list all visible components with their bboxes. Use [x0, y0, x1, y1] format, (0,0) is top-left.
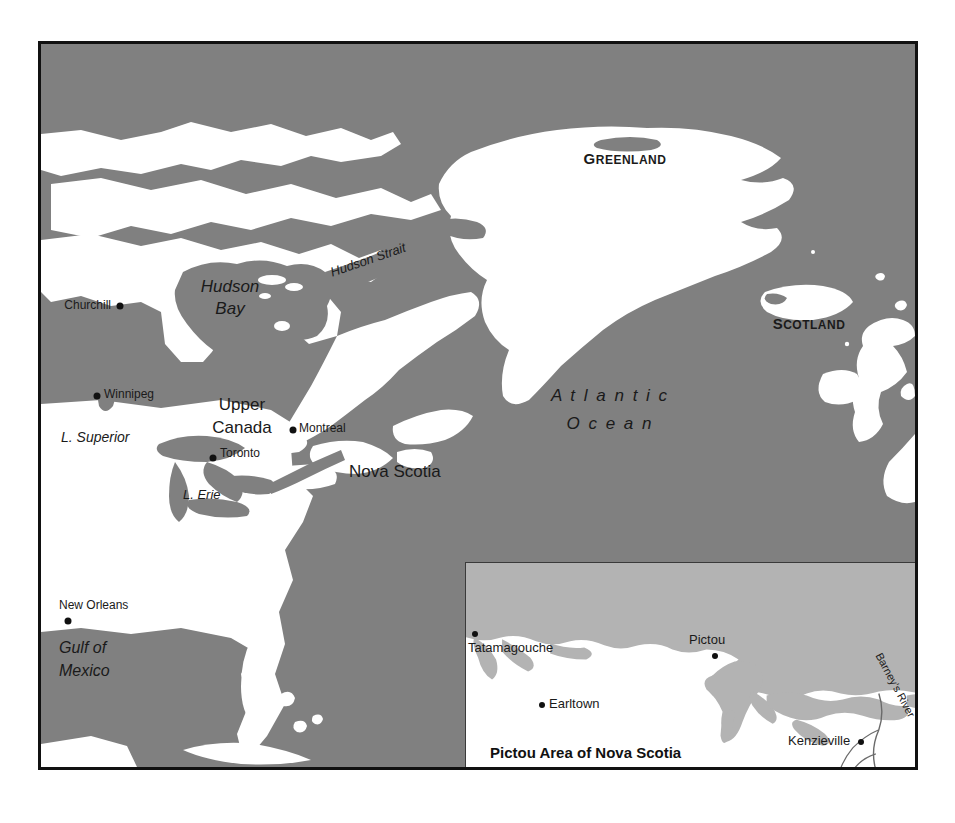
hudson-bay-island-a [258, 275, 286, 285]
city-label-churchill: Churchill [64, 299, 111, 312]
hudson-bay-island-c [274, 321, 290, 331]
label-atlantic-ocean-line2: O c e a n [567, 415, 654, 433]
place-label-tatamagouche: Tatamagouche [468, 641, 553, 655]
label-lake-erie: L. Erie [183, 488, 221, 502]
place-dot-earltown [539, 702, 545, 708]
label-lake-superior: L. Superior [61, 430, 129, 445]
place-label-kenzieville: Kenzieville [788, 734, 850, 748]
atlantic-speck-c [811, 250, 815, 254]
city-dot-new-orleans [65, 618, 72, 625]
label-gulf-of-mexico-line1: Gulf of [59, 639, 106, 656]
place-label-pictou: Pictou [689, 633, 725, 647]
place-label-earltown: Earltown [549, 697, 600, 711]
label-hudson-bay-line1: Hudson [201, 278, 260, 296]
city-label-montreal: Montreal [299, 422, 346, 435]
inset-map-graphic [466, 563, 918, 770]
label-gulf-of-mexico-line2: Mexico [59, 662, 110, 679]
label-hudson-bay-line2: Bay [215, 300, 244, 318]
ireland-land [818, 370, 861, 405]
atlantic-speck-a [845, 342, 849, 346]
main-map: GREENLAND SCOTLAND A t l a n t i c O c e… [38, 41, 918, 770]
city-label-winnipeg: Winnipeg [104, 388, 154, 401]
city-dot-winnipeg [94, 393, 101, 400]
city-dot-toronto [210, 455, 217, 462]
inset-map-pictou: Tatamagouche Pictou Earltown Kenzieville… [465, 562, 918, 770]
label-nova-scotia: Nova Scotia [349, 463, 441, 481]
map-figure: GREENLAND SCOTLAND A t l a n t i c O c e… [0, 0, 955, 823]
atlantic-speck-b [891, 360, 895, 364]
label-upper-canada-line1: Upper [219, 396, 265, 414]
city-label-new-orleans: New Orleans [59, 599, 128, 612]
place-dot-tatamagouche [472, 631, 478, 637]
city-label-toronto: Toronto [220, 447, 260, 460]
city-dot-montreal [290, 427, 297, 434]
label-scotland: SCOTLAND [773, 315, 846, 332]
label-upper-canada-line2: Canada [212, 419, 272, 437]
label-atlantic-ocean-line1: A t l a n t i c [551, 387, 669, 405]
inset-title: Pictou Area of Nova Scotia [490, 744, 681, 761]
place-dot-kenzieville [858, 739, 864, 745]
hudson-bay-island-d [259, 293, 271, 299]
label-greenland: GREENLAND [584, 150, 667, 167]
place-dot-pictou [712, 653, 718, 659]
hudson-bay-island-b [285, 283, 303, 291]
city-dot-churchill [117, 303, 124, 310]
